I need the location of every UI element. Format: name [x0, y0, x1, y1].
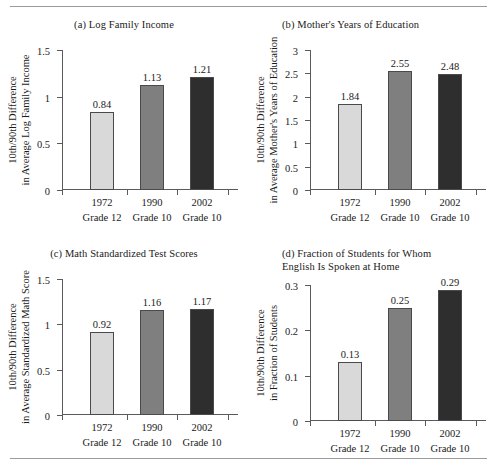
y-axis-label-line1: 10th/90th Difference: [6, 54, 19, 185]
x-axis-label-year: 1990: [133, 195, 172, 210]
bar-1990[interactable]: 1.16: [140, 310, 164, 415]
x-axis-label-group: 1972Grade 12: [83, 195, 122, 225]
bar-1972[interactable]: 0.13: [338, 362, 362, 421]
chart-panel-b: (b) Mother's Years of Education10th/90th…: [248, 10, 497, 239]
y-axis-label-line1: 10th/90th Difference: [254, 37, 267, 204]
bar-1972[interactable]: 1.84: [338, 104, 362, 190]
bar-1972[interactable]: 0.84: [90, 112, 114, 190]
x-axis-label-year: 1972: [331, 426, 370, 441]
y-tick-label: 1: [45, 92, 50, 103]
bar-2002[interactable]: 0.29: [438, 290, 462, 421]
y-axis-label-b: 10th/90th Differencein Average Mother's …: [252, 50, 282, 190]
x-axis-labels-d: 1972Grade 121990Grade 102002Grade 10: [310, 426, 486, 460]
x-axis-label-grade: Grade 12: [331, 210, 370, 225]
top-divider-rule: [10, 6, 487, 7]
y-axis-label-line2: in Average Log Family Income: [19, 54, 32, 185]
x-axis-label-group: 2002Grade 10: [431, 426, 470, 456]
panel-title-d: (d) Fraction of Students for Whom Englis…: [248, 247, 497, 273]
y-axis-label-line1: 10th/90th Difference: [254, 305, 267, 401]
y-tick: 1.5: [305, 120, 310, 121]
y-tick-label: 0.3: [285, 281, 298, 292]
y-tick: 2.5: [305, 73, 310, 74]
x-axis-label-year: 1990: [381, 195, 420, 210]
bar-1990[interactable]: 2.55: [388, 71, 412, 190]
x-axis-label-group: 1972Grade 12: [331, 426, 370, 456]
panel-title-a: (a) Log Family Income: [0, 18, 248, 31]
x-axis-label-year: 2002: [431, 426, 470, 441]
bar-2002[interactable]: 2.48: [438, 74, 462, 190]
bar-value-label: 0.13: [341, 349, 359, 360]
x-axis-label-group: 1990Grade 10: [381, 426, 420, 456]
x-axis-label-grade: Grade 10: [431, 210, 470, 225]
plot-area-c: 00.511.50.921.161.171972Grade 121990Grad…: [62, 279, 228, 415]
y-axis-line: [310, 50, 311, 190]
x-axis-label-grade: Grade 10: [381, 210, 420, 225]
bar-1990[interactable]: 0.25: [388, 308, 412, 421]
y-tick-label: 1.5: [285, 116, 298, 127]
x-axis-label-year: 2002: [431, 195, 470, 210]
bar-2002[interactable]: 1.21: [190, 77, 214, 190]
x-axis-label-year: 1972: [83, 195, 122, 210]
x-axis-label-grade: Grade 10: [183, 435, 222, 450]
y-tick-label: 1.5: [37, 275, 50, 286]
x-axis-label-grade: Grade 10: [133, 435, 172, 450]
y-axis-line: [62, 279, 63, 415]
bar-value-label: 1.21: [193, 64, 211, 75]
x-axis-label-group: 1990Grade 10: [133, 420, 172, 450]
x-axis-label-group: 2002Grade 10: [431, 195, 470, 225]
bar-1972[interactable]: 0.92: [90, 332, 114, 415]
panel-grid: (a) Log Family Income10th/90th Differenc…: [0, 10, 497, 458]
panel-title-b: (b) Mother's Years of Education: [248, 18, 497, 31]
x-axis-label-grade: Grade 10: [133, 210, 172, 225]
x-axis-label-grade: Grade 10: [431, 441, 470, 456]
panel-title-c: (c) Math Standardized Test Scores: [0, 247, 248, 260]
bar-value-label: 1.16: [143, 297, 161, 308]
y-tick: 0.5: [57, 143, 62, 144]
y-axis-label-line2: in Average Mother's Years of Education: [267, 37, 280, 204]
x-axis-label-year: 1990: [381, 426, 420, 441]
y-tick: 0.5: [57, 370, 62, 371]
y-tick-label: 0: [293, 417, 298, 428]
x-axis-label-grade: Grade 10: [183, 210, 222, 225]
bar-value-label: 1.13: [143, 72, 161, 83]
y-tick-label: 0: [45, 411, 50, 422]
y-tick-label: 0.5: [285, 162, 298, 173]
x-axis-label-year: 1972: [83, 420, 122, 435]
y-tick-label: 1: [293, 139, 298, 150]
plot-area-d: 00.10.20.30.130.250.291972Grade 121990Gr…: [310, 285, 476, 421]
plot-area-a: 00.511.50.841.131.211972Grade 121990Grad…: [62, 50, 228, 190]
y-tick: 1.5: [57, 279, 62, 280]
bar-2002[interactable]: 1.17: [190, 309, 214, 415]
x-axis-label-group: 1990Grade 10: [381, 195, 420, 225]
y-axis-label-a: 10th/90th Differencein Average Log Famil…: [4, 50, 34, 190]
x-axis-label-group: 1990Grade 10: [133, 195, 172, 225]
y-tick-label: 0.2: [285, 326, 298, 337]
chart-panel-c: (c) Math Standardized Test Scores10th/90…: [0, 239, 248, 458]
y-tick: 3: [305, 50, 310, 51]
y-tick: 2: [305, 97, 310, 98]
plot-area-b: 00.511.522.531.842.552.481972Grade 12199…: [310, 50, 476, 190]
x-axis-label-year: 2002: [183, 420, 222, 435]
x-axis-label-grade: Grade 10: [381, 441, 420, 456]
x-axis-label-grade: Grade 12: [83, 435, 122, 450]
bar-value-label: 0.25: [391, 295, 409, 306]
y-tick: 0.3: [305, 285, 310, 286]
x-axis-label-year: 1972: [331, 195, 370, 210]
bar-value-label: 2.55: [391, 58, 409, 69]
x-axis-labels-c: 1972Grade 121990Grade 102002Grade 10: [62, 420, 238, 454]
chart-panel-a: (a) Log Family Income10th/90th Differenc…: [0, 10, 248, 239]
bar-1990[interactable]: 1.13: [140, 85, 164, 190]
x-axis-label-year: 1990: [133, 420, 172, 435]
y-tick: 1: [57, 97, 62, 98]
y-tick-label: 0.5: [37, 139, 50, 150]
bar-value-label: 1.17: [193, 296, 211, 307]
y-axis-label-line1: 10th/90th Difference: [6, 270, 19, 424]
x-axis-labels-b: 1972Grade 121990Grade 102002Grade 10: [310, 195, 486, 229]
y-axis-label-c: 10th/90th Differencein Average Standardi…: [4, 279, 34, 415]
y-tick: 0.2: [305, 330, 310, 331]
y-axis-label-line2: in Fraction of Students: [267, 305, 280, 401]
x-axis-label-grade: Grade 12: [83, 210, 122, 225]
x-axis-label-group: 1972Grade 12: [83, 420, 122, 450]
bar-value-label: 2.48: [441, 61, 459, 72]
bar-value-label: 0.92: [93, 319, 111, 330]
